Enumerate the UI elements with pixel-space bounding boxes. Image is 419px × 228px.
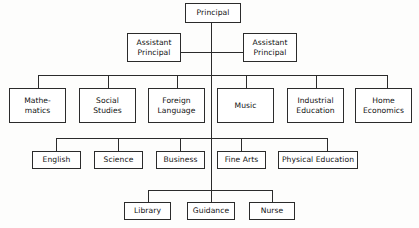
node-principal[interactable]: Principal xyxy=(185,3,241,23)
drop-foreign-language xyxy=(177,75,178,88)
node-assistant-principal-right[interactable]: Assistant Principal xyxy=(243,33,297,62)
drop-industrial-education xyxy=(316,75,317,88)
node-library[interactable]: Library xyxy=(124,202,171,220)
drop-guidance xyxy=(211,190,212,202)
node-fine-arts[interactable]: Fine Arts xyxy=(217,151,266,169)
drop-mathematics xyxy=(38,75,39,88)
connector-assistant-principals xyxy=(180,52,243,53)
drop-science xyxy=(118,138,119,151)
drop-business xyxy=(180,138,181,151)
node-physical-education[interactable]: Physical Education xyxy=(278,151,358,169)
trunk-line-main xyxy=(211,23,212,190)
node-assistant-principal-left[interactable]: Assistant Principal xyxy=(127,33,181,62)
node-music[interactable]: Music xyxy=(217,88,274,123)
node-social-studies[interactable]: Social Studies xyxy=(79,88,136,123)
node-foreign-language[interactable]: Foreign Language xyxy=(148,88,205,123)
drop-english xyxy=(56,138,57,151)
drop-fine-arts xyxy=(241,138,242,151)
drop-physical-education xyxy=(327,138,328,151)
node-english[interactable]: English xyxy=(32,151,81,169)
org-chart: Principal Assistant Principal Assistant … xyxy=(0,0,419,228)
node-nurse[interactable]: Nurse xyxy=(249,202,295,220)
connector-bus-departments xyxy=(38,75,388,76)
drop-home-economics xyxy=(387,75,388,88)
node-science[interactable]: Science xyxy=(94,151,143,169)
drop-social-studies xyxy=(108,75,109,88)
connector-bus-subjects xyxy=(56,138,328,139)
node-guidance[interactable]: Guidance xyxy=(187,202,235,220)
drop-nurse xyxy=(272,190,273,202)
drop-library xyxy=(148,190,149,202)
node-business[interactable]: Business xyxy=(156,151,205,169)
node-industrial-education[interactable]: Industrial Education xyxy=(287,88,344,123)
drop-music xyxy=(246,75,247,88)
node-mathematics[interactable]: Mathe- matics xyxy=(9,88,66,123)
node-home-economics[interactable]: Home Economics xyxy=(355,88,412,123)
